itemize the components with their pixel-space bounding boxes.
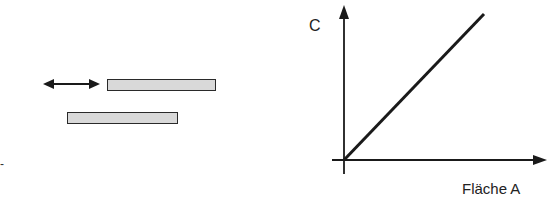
diagram-canvas: - C Fläche A [0, 0, 548, 198]
x-axis [332, 155, 547, 165]
y-axis-arrow-icon [339, 5, 349, 19]
proportional-line [344, 14, 484, 160]
x-axis-label: Fläche A [462, 180, 520, 197]
y-axis [339, 5, 349, 174]
x-axis-arrow-icon [533, 155, 547, 165]
chart-graphics [0, 0, 548, 198]
y-axis-label: C [309, 17, 321, 35]
